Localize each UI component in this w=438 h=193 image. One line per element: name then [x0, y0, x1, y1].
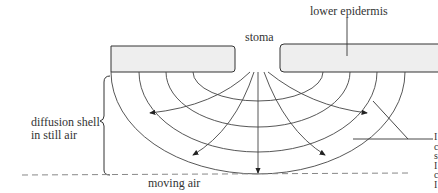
moving-air-line	[22, 173, 410, 175]
brace	[100, 76, 110, 175]
diagram-canvas	[0, 0, 438, 193]
flow-arrows	[150, 72, 367, 173]
epidermis-left	[111, 46, 235, 72]
epidermis-right	[280, 44, 438, 72]
cut-off-label: I c s I c I	[434, 132, 438, 189]
moving-air-label: moving air	[148, 177, 200, 190]
pointer-line	[373, 101, 408, 139]
lower-epidermis-label: lower epidermis	[310, 5, 388, 18]
stoma-label: stoma	[245, 31, 274, 44]
still-air-label: in still air	[31, 129, 77, 142]
